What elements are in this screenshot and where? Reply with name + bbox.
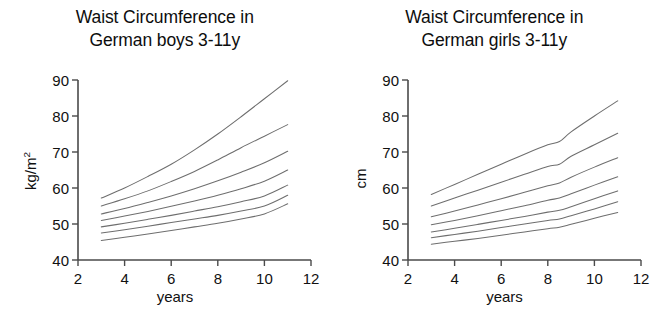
y-tick-label: 90 [52,72,69,89]
x-tick-label: 10 [586,270,603,287]
x-tick-label: 4 [120,270,128,287]
percentile-curve-p50 [101,170,287,220]
x-tick-label: 10 [256,270,273,287]
plot-svg-boys: 40506070809024681012 [0,62,330,322]
chart-panel-girls: Waist Circumference in German girls 3-11… [330,0,659,322]
plot-area-boys: 40506070809024681012 [0,62,330,322]
y-tick-label: 50 [52,216,69,233]
figure-container: Waist Circumference in German boys 3-11y… [0,0,659,322]
y-tick-label: 60 [52,180,69,197]
plot-area-girls: 40506070809024681012 [330,62,659,322]
x-tick-label: 6 [167,270,175,287]
percentile-curve-p97 [101,81,287,198]
percentile-curve-p3 [431,212,617,244]
percentile-curve-p97 [431,101,617,195]
x-axis-label-girls: years [390,288,620,305]
x-tick-label: 12 [303,270,320,287]
y-tick-label: 90 [382,72,399,89]
x-tick-label: 2 [403,270,411,287]
y-tick-label: 40 [52,252,69,269]
plot-svg-girls: 40506070809024681012 [330,62,659,322]
y-axis-label-girls: cm [351,149,368,209]
x-tick-label: 2 [74,270,82,287]
y-tick-label: 50 [382,216,399,233]
y-tick-label: 40 [382,252,399,269]
x-tick-label: 6 [497,270,505,287]
y-tick-label: 80 [52,108,69,125]
panel-title-boys: Waist Circumference in German boys 3-11y [0,6,330,52]
y-tick-label: 70 [382,144,399,161]
panel-title-girls: Waist Circumference in German girls 3-11… [330,6,659,52]
chart-panel-boys: Waist Circumference in German boys 3-11y… [0,0,330,322]
y-tick-label: 80 [382,108,399,125]
x-tick-label: 4 [450,270,458,287]
x-tick-label: 8 [214,270,222,287]
y-axis-label-boys: kg/m2 [21,141,39,201]
percentile-curve-p25 [101,185,287,227]
y-tick-label: 70 [52,144,69,161]
y-tick-label: 60 [382,180,399,197]
x-axis-label-boys: years [60,288,290,305]
x-tick-label: 8 [543,270,551,287]
x-tick-label: 12 [632,270,649,287]
